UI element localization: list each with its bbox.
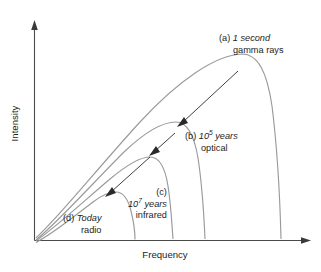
curve-c-unit: years: [144, 199, 166, 209]
curve-a-age: 1 second: [233, 33, 270, 43]
curve-label-d: (d) Today radio: [63, 213, 102, 236]
curve-b-unit: years: [215, 131, 237, 141]
curve-c-exponent: 7: [138, 197, 142, 204]
curve-d-band: radio: [63, 225, 102, 237]
curve-label-b: (b) 105 years optical: [185, 131, 238, 154]
y-axis: [31, 20, 38, 241]
curve-d-marker: (d): [63, 213, 74, 223]
curve-b-optical: [36, 122, 205, 240]
curve-c-band: infrared: [128, 210, 167, 222]
curve-b-marker: (b): [185, 131, 196, 141]
curve-b-exponent: 5: [209, 129, 213, 136]
curve-label-a: (a) 1 second gamma rays: [219, 33, 284, 56]
y-axis-label: Intensity: [9, 94, 20, 154]
curve-b-mantissa: 10: [199, 131, 209, 141]
x-axis-label: Frequency: [120, 249, 210, 260]
curve-a-marker: (a): [219, 33, 230, 43]
curve-label-c: (c) 107 years infrared: [128, 187, 167, 222]
curve-d-age: Today: [77, 213, 102, 223]
curve-c-marker: (c): [128, 187, 167, 199]
curve-c-mantissa: 10: [128, 199, 138, 209]
curve-b-band: optical: [185, 143, 238, 155]
blackbody-spectra-figure: (a) 1 second gamma rays (b) 105 years op…: [0, 0, 321, 272]
curve-a-band: gamma rays: [219, 45, 284, 57]
arrow-b-to-c: [149, 133, 175, 156]
